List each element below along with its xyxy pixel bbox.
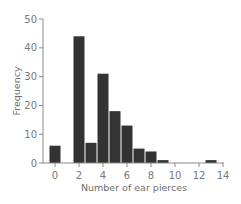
- histogram-chart: 01020304050 02468101214 Number of ear pi…: [0, 0, 241, 204]
- bar-6: [122, 126, 133, 163]
- y-tick-label: 20: [24, 100, 37, 111]
- y-ticks-group: 01020304050: [24, 14, 43, 169]
- x-tick-label: 14: [217, 170, 230, 181]
- bar-4: [98, 74, 109, 163]
- y-tick-label: 50: [24, 14, 37, 25]
- x-tick-label: 12: [193, 170, 206, 181]
- y-tick-label: 0: [31, 158, 37, 169]
- x-tick-label: 10: [169, 170, 182, 181]
- y-tick-label: 10: [24, 129, 37, 140]
- x-tick-label: 4: [100, 170, 106, 181]
- y-tick-label: 40: [24, 42, 37, 53]
- bar-2: [74, 36, 85, 163]
- axes-group: [43, 19, 224, 163]
- bar-8: [146, 151, 157, 163]
- bar-5: [110, 111, 121, 163]
- y-tick-label: 30: [24, 71, 37, 82]
- bars-group: [50, 36, 217, 163]
- bar-3: [86, 143, 97, 163]
- x-tick-label: 2: [76, 170, 82, 181]
- x-ticks-group: 02468101214: [52, 163, 230, 181]
- x-tick-label: 0: [52, 170, 58, 181]
- x-tick-label: 8: [148, 170, 154, 181]
- bar-0: [50, 146, 61, 163]
- x-tick-label: 6: [124, 170, 130, 181]
- bar-7: [134, 149, 145, 163]
- x-axis-title: Number of ear pierces: [81, 182, 187, 193]
- y-axis-title: Frequency: [11, 66, 22, 115]
